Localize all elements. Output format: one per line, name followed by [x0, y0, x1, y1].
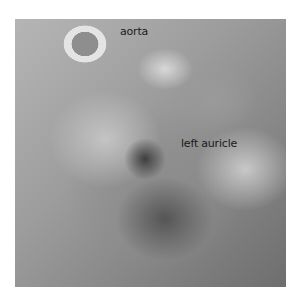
label-left-auricle: left auricle	[181, 137, 237, 150]
heart-specimen-photo	[15, 19, 286, 287]
label-aorta: aorta	[120, 25, 148, 38]
